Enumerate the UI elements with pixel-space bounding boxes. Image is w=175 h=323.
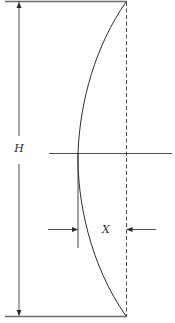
deflection-label: X [101,223,111,236]
deflected-column-curve [78,2,126,316]
deflection-diagram: H X [0,0,175,323]
height-label: H [13,142,24,155]
